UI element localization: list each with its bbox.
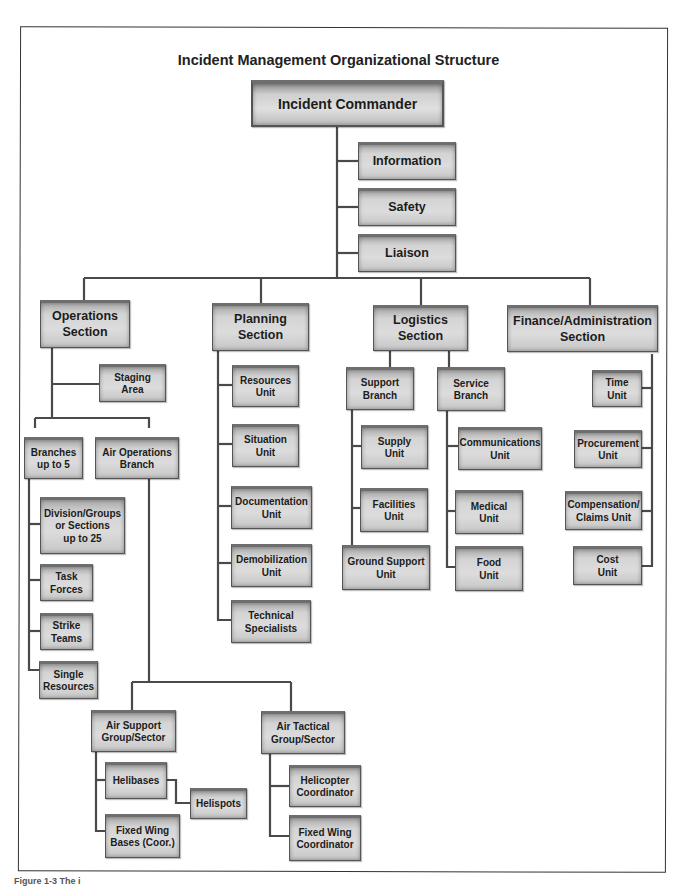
node-task-forces: Task Forces [40,564,93,601]
node-facilities-unit: Facilities Unit [360,488,428,532]
connector-air-tactical-spine [270,754,290,836]
figure-caption: Figure 1-3 The i [14,876,81,886]
node-division-groups: Division/Groups or Sections up to 25 [40,497,125,554]
node-logistics-section: Logistics Section [373,305,468,351]
connector-helispots [166,780,191,803]
node-information: Information [358,142,456,180]
node-time-unit: Time Unit [592,370,642,407]
connector-planning-spine [218,350,232,620]
node-fixed-wing-coordinator: Fixed Wing Coordinator [289,815,361,861]
node-documentation-unit: Documentation Unit [231,486,312,529]
node-staging-area: Staging Area [99,364,166,402]
connector-ops-branch-bus [35,418,149,428]
node-demobilization-unit: Demobilization Unit [231,544,312,587]
connector-finance-spine [641,354,652,566]
node-compensation-claims-unit: Compensation/ Claims Unit [565,491,642,530]
node-air-support-group: Air Support Group/Sector [91,710,176,752]
node-single-resources: Single Resources [39,661,98,699]
node-strike-teams: Strike Teams [40,613,93,650]
node-service-branch: Service Branch [437,367,505,411]
node-support-branch: Support Branch [346,367,414,410]
node-branches: Branches up to 5 [24,437,83,479]
node-technical-specialists: Technical Specialists [231,600,311,643]
node-operations-section: Operations Section [40,300,130,348]
node-safety: Safety [358,188,456,226]
node-supply-unit: Supply Unit [361,425,428,469]
node-ground-support-unit: Ground Support Unit [342,545,430,590]
node-situation-unit: Situation Unit [232,424,299,467]
node-helicopter-coordinator: Helicopter Coordinator [289,765,361,807]
node-helibases: Helibases [105,762,167,799]
node-cost-unit: Cost Unit [573,546,642,585]
node-helispots: Helispots [190,788,247,819]
node-food-unit: Food Unit [455,546,523,591]
node-incident-commander: Incident Commander [251,80,444,127]
node-resources-unit: Resources Unit [232,365,299,407]
node-air-tactical-group: Air Tactical Group/Sector [261,711,345,754]
node-liaison: Liaison [358,234,456,272]
node-air-operations-branch: Air Operations Branch [95,437,179,479]
connector-branches-spine [29,479,40,670]
node-fixed-wing-bases: Fixed Wing Bases (Coor.) [105,814,180,858]
node-communications-unit: Communications Unit [458,427,542,470]
node-procurement-unit: Procurement Unit [574,430,642,468]
connector-service-spine [447,411,455,567]
node-planning-section: Planning Section [212,303,309,351]
node-medical-unit: Medical Unit [455,490,523,534]
node-finance-section: Finance/Administration Section [507,305,658,352]
